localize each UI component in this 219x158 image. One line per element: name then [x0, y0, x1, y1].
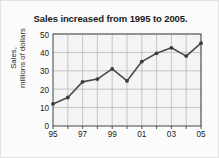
line-chart-plot [1, 1, 219, 158]
chart-screenshot: Sales increased from 1995 to 2005. Sales… [0, 0, 219, 158]
